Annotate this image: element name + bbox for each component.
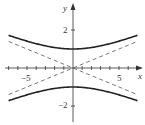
y-tick-label-neg2: −2 bbox=[58, 100, 68, 110]
x-tick-label-5: 5 bbox=[117, 73, 122, 83]
y-axis-arrow-icon bbox=[71, 3, 76, 10]
x-axis-label: x bbox=[137, 71, 142, 81]
y-axis-label: y bbox=[62, 3, 67, 13]
hyperbola-chart: −5 5 x 2 −2 y bbox=[0, 0, 145, 125]
y-tick-label-2: 2 bbox=[63, 25, 68, 35]
x-tick-label-neg5: −5 bbox=[21, 73, 31, 83]
